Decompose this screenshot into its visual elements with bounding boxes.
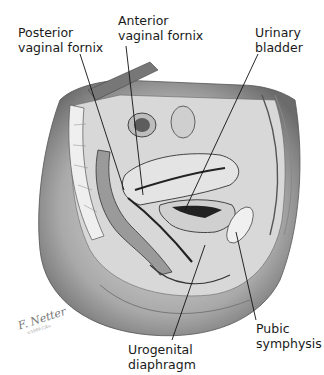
label-pubic-symphysis: Pubic symphysis <box>256 322 322 351</box>
label-urinary-bladder: Urinary bladder <box>255 26 303 55</box>
label-urogenital-diaphragm: Urogenital diaphragm <box>128 343 196 372</box>
label-anterior-vaginal-fornix: Anterior vaginal fornix <box>118 14 203 43</box>
ovary <box>171 106 195 138</box>
label-posterior-vaginal-fornix: Posterior vaginal fornix <box>18 26 103 55</box>
